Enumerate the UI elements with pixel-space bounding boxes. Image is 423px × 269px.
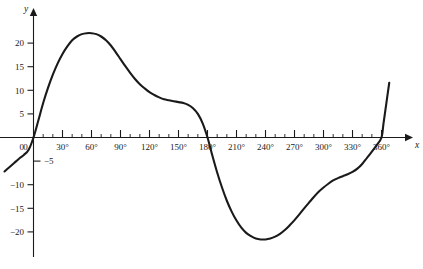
x-axis-arrowhead bbox=[405, 134, 413, 141]
x-tick-label: 240° bbox=[257, 142, 275, 152]
y-axis-label: y bbox=[23, 4, 29, 14]
x-tick-label: 120° bbox=[141, 142, 159, 152]
line-chart: 030°60°90°120°150°180°210°240°270°300°33… bbox=[0, 0, 423, 269]
x-tick-label: 300° bbox=[315, 142, 333, 152]
x-tick-label: 210° bbox=[228, 142, 246, 152]
y-tick-label: −5 bbox=[44, 156, 54, 166]
x-tick-label: 90° bbox=[114, 142, 127, 152]
x-axis-tick-labels: 030°60°90°120°150°180°210°240°270°300°33… bbox=[23, 142, 390, 152]
x-tick-label: 60° bbox=[85, 142, 98, 152]
y-tick-label: 10 bbox=[15, 86, 25, 96]
origin-label: 0 bbox=[20, 142, 25, 152]
y-axis-arrowhead bbox=[30, 8, 37, 16]
x-tick-label: 30° bbox=[56, 142, 69, 152]
x-tick-label: 150° bbox=[170, 142, 188, 152]
y-tick-label: 15 bbox=[15, 62, 25, 72]
x-tick-label: 180° bbox=[199, 142, 217, 152]
y-tick-label: 20 bbox=[15, 38, 25, 48]
x-axis-ticks bbox=[43, 130, 381, 138]
x-tick-label: 330° bbox=[344, 142, 362, 152]
y-tick-label: −15 bbox=[10, 204, 25, 214]
chart-container: 030°60°90°120°150°180°210°240°270°300°33… bbox=[0, 0, 423, 269]
x-tick-label: 270° bbox=[286, 142, 304, 152]
y-tick-label: 5 bbox=[20, 109, 25, 119]
y-tick-label: −10 bbox=[10, 180, 25, 190]
y-tick-label: −20 bbox=[10, 227, 25, 237]
x-axis-label: x bbox=[414, 140, 420, 150]
